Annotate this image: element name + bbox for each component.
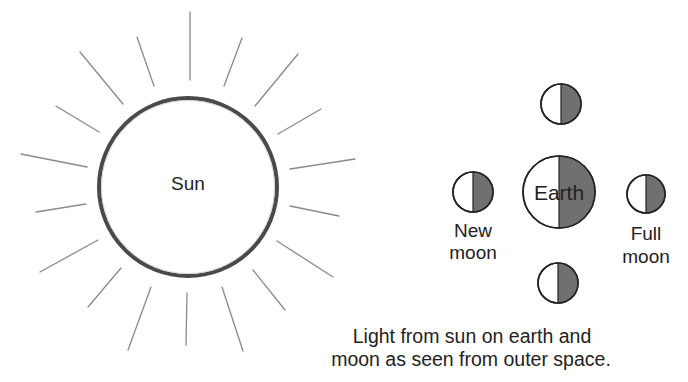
moon-new-dark-half: [473, 172, 493, 212]
sun-ray: [21, 154, 87, 167]
earth: Earth: [523, 156, 595, 228]
sun-label: Sun: [171, 173, 205, 194]
sun: Sun: [99, 98, 277, 276]
sun-ray: [186, 293, 187, 345]
new-moon-label-line2: moon: [449, 242, 497, 263]
sun-ray: [290, 206, 339, 216]
sun-ray: [128, 287, 151, 350]
sun-ray: [224, 38, 242, 86]
moon-bottom-dark-half: [558, 263, 578, 303]
sun-ray: [137, 37, 154, 86]
caption-line1: Light from sun on earth and: [353, 325, 592, 347]
sun-ray: [36, 204, 86, 212]
sun-ray: [80, 52, 123, 104]
full-moon-label-line2: moon: [622, 246, 670, 267]
sun-ray: [222, 287, 243, 351]
sun-ray: [253, 270, 285, 310]
earth-label: Earth: [534, 181, 584, 204]
moon-top: [541, 84, 581, 124]
moon-new: [453, 172, 493, 212]
sun-ray: [290, 159, 355, 169]
moon-full-dark-half: [646, 175, 665, 213]
sun-ray: [255, 54, 298, 106]
moon-top-dark-half: [561, 84, 581, 124]
full-moon-label-line1: Full: [631, 223, 662, 244]
moon-bottom: [538, 263, 578, 303]
sun-ray: [278, 109, 321, 134]
caption-line2: moon as seen from outer space.: [331, 348, 611, 370]
sun-earth-moon-diagram: g Sun Earth New: [0, 0, 688, 382]
sun-ray: [277, 241, 333, 277]
sun-ray: [88, 268, 121, 307]
new-moon-label-line1: New: [454, 220, 492, 241]
sun-ray: [56, 106, 99, 132]
moon-full: [627, 175, 665, 213]
sun-ray: [40, 240, 98, 272]
